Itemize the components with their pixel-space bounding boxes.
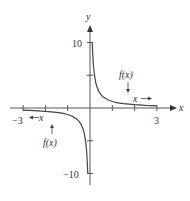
- annotation-arrow-down-head-icon: [126, 89, 130, 93]
- x-axis-label: x: [178, 102, 184, 113]
- x-tick-label-3: 3: [154, 115, 159, 126]
- x-axis-arrow-icon: [170, 105, 177, 111]
- annotation-fx-right: f(x): [119, 69, 134, 81]
- y-tick-label-neg10: −10: [63, 169, 79, 180]
- annotation-fx-left: f(x): [43, 137, 58, 149]
- annotation-arrow-up-head-icon: [50, 124, 54, 128]
- annotation-arrow-right-head-icon: [148, 97, 152, 101]
- y-tick-label-10: 10: [72, 38, 82, 49]
- y-axis-label: y: [85, 11, 91, 22]
- annotation-x-left: x: [38, 112, 44, 123]
- y-axis-arrow-icon: [87, 25, 93, 32]
- annotation-x-right: x: [132, 93, 138, 104]
- function-graph: y x 10 −10 −3 3 f(x) x x f(x): [0, 0, 190, 201]
- x-tick-label-neg3: −3: [12, 115, 23, 126]
- annotation-arrow-left-head-icon: [29, 116, 33, 120]
